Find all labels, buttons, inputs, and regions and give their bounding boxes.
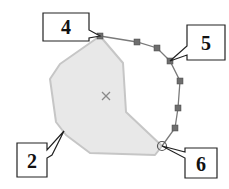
callout-5-label: 5 bbox=[201, 32, 211, 54]
vertex-handle[interactable] bbox=[134, 39, 140, 45]
vertex-handle[interactable] bbox=[154, 45, 160, 51]
callout-6: 6 bbox=[162, 146, 217, 178]
callout-4-label: 4 bbox=[61, 16, 71, 38]
callout-5: 5 bbox=[170, 25, 225, 61]
vertex-handle[interactable] bbox=[175, 105, 181, 111]
callout-4: 4 bbox=[43, 13, 100, 41]
vertex-handle[interactable] bbox=[172, 125, 178, 131]
callout-2-label: 2 bbox=[27, 150, 37, 172]
vertex-handle[interactable] bbox=[177, 78, 183, 84]
diagram-canvas: 4 5 6 2 bbox=[0, 0, 229, 189]
callout-6-label: 6 bbox=[196, 153, 206, 175]
callout-2: 2 bbox=[17, 131, 64, 177]
